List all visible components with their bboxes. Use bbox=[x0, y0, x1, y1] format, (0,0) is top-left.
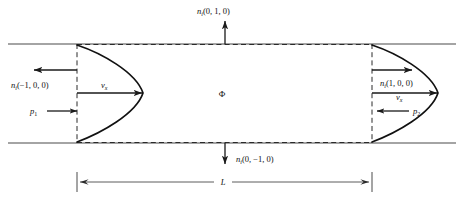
normal-vector-right-label: ni(1, 0, 0) bbox=[380, 78, 413, 89]
normal-bottom-args: (0, −1, 0) bbox=[242, 154, 274, 164]
normal-right-args: (1, 0, 0) bbox=[386, 78, 413, 88]
normal-left-args: (−1, 0, 0) bbox=[17, 80, 49, 90]
flow-control-volume-diagram: ni(0, 1, 0) ni(0, −1, 0) ni(−1, 0, 0) ni… bbox=[0, 0, 464, 201]
pressure-right-label: p2 bbox=[412, 106, 420, 117]
normal-vector-bottom-label: ni(0, −1, 0) bbox=[236, 154, 274, 165]
pressure-right-subscript: 2 bbox=[417, 111, 420, 117]
pressure-left-subscript: 1 bbox=[34, 111, 37, 117]
velocity-left-label: vx bbox=[101, 80, 108, 91]
pressure-left-label: p1 bbox=[29, 106, 37, 117]
velocity-left-subscript: x bbox=[104, 85, 108, 91]
control-volume-symbol: Φ bbox=[219, 89, 226, 99]
normal-top-args: (0, 1, 0) bbox=[203, 6, 230, 16]
normal-vector-top-label: ni(0, 1, 0) bbox=[197, 6, 230, 17]
length-label: L bbox=[220, 177, 226, 187]
velocity-right-subscript: x bbox=[399, 97, 403, 103]
diagram-canvas: ni(0, 1, 0) ni(0, −1, 0) ni(−1, 0, 0) ni… bbox=[0, 0, 464, 201]
normal-vector-left-label: ni(−1, 0, 0) bbox=[11, 80, 49, 91]
